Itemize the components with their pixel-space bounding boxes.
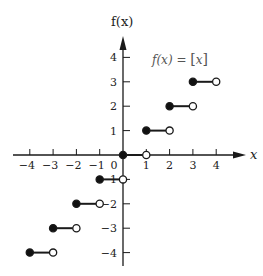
x-tick-label: −4 (19, 159, 35, 172)
open-dot (119, 176, 126, 183)
y-axis-title: f(x) (111, 14, 133, 29)
y-tick-label: 2 (110, 100, 117, 113)
closed-dot (189, 78, 196, 85)
x-tick-label: 2 (166, 159, 173, 172)
closed-dot (96, 176, 103, 183)
closed-dot (26, 249, 33, 256)
open-dot (96, 200, 103, 207)
y-tick-label: −4 (101, 247, 117, 260)
closed-dot (119, 151, 126, 158)
x-tick-label: 1 (143, 159, 150, 172)
closed-dot (166, 103, 173, 110)
x-axis-title: x (250, 147, 258, 162)
x-tick-label: 4 (213, 159, 220, 172)
axes (13, 36, 246, 266)
x-axis-arrow-icon (233, 152, 246, 159)
y-tick-label: 1 (110, 125, 117, 138)
closed-dot (73, 200, 80, 207)
closed-dot (143, 127, 150, 134)
closed-dot (50, 225, 57, 232)
x-tick-label: −1 (89, 159, 105, 172)
open-dot (73, 225, 80, 232)
y-axis-arrow-icon (120, 36, 127, 50)
open-dot (166, 127, 173, 134)
x-tick-label: 3 (189, 159, 196, 172)
open-dot (189, 103, 196, 110)
y-tick-label: 4 (110, 51, 117, 64)
open-dot (50, 249, 57, 256)
y-tick-label: −3 (101, 222, 117, 235)
function-label: f(x) = [x] (151, 51, 208, 67)
x-tick-label: −2 (65, 159, 81, 172)
open-dot (143, 151, 150, 158)
open-dot (213, 78, 220, 85)
step-function-chart: −4−3−2−1012344321−1−2−3−4 f(x) x f(x) = … (0, 0, 263, 276)
x-tick-label: −3 (42, 159, 58, 172)
y-tick-label: 3 (110, 76, 117, 89)
x-tick-label: 0 (111, 159, 118, 172)
